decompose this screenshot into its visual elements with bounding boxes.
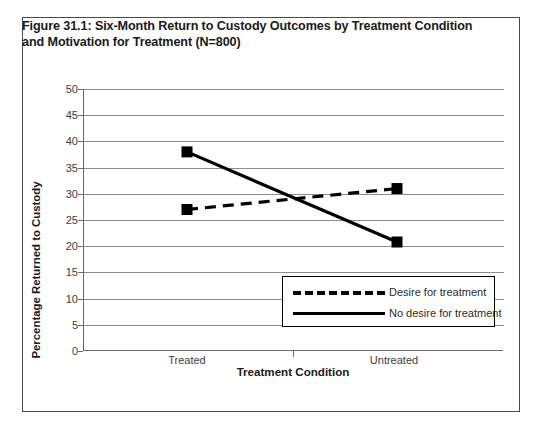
y-tick-label-35: 35 xyxy=(48,163,78,173)
gridline-50 xyxy=(84,89,504,90)
y-tick-20 xyxy=(78,246,83,247)
figure-title: Figure 31.1: Six-Month Return to Custody… xyxy=(22,18,484,50)
x-axis-title: Treatment Condition xyxy=(83,365,503,378)
y-tick-5 xyxy=(78,325,83,326)
gridline-25 xyxy=(84,220,504,221)
y-tick-label-30: 30 xyxy=(48,189,78,199)
y-tick-35 xyxy=(78,168,83,169)
y-tick-label-20: 20 xyxy=(48,241,78,251)
y-tick-label-50: 50 xyxy=(48,84,78,94)
gridline-45 xyxy=(84,115,504,116)
y-tick-label-5: 5 xyxy=(48,320,78,330)
y-axis-title: Percentage Returned to Custody xyxy=(30,90,42,432)
y-tick-label-0: 0 xyxy=(48,346,78,356)
y-tick-10 xyxy=(78,299,83,300)
legend-item-no-desire[interactable]: No desire for treatment xyxy=(283,303,496,323)
gridline-20 xyxy=(84,246,504,247)
y-tick-15 xyxy=(78,272,83,273)
y-tick-label-15: 15 xyxy=(48,267,78,277)
y-tick-25 xyxy=(78,220,83,221)
gridline-30 xyxy=(84,194,504,195)
legend-label-no-desire: No desire for treatment xyxy=(389,307,502,319)
legend-item-desire[interactable]: Desire for treatment xyxy=(283,282,496,302)
legend-swatch-solid-line-icon xyxy=(293,306,385,320)
y-tick-label-45: 45 xyxy=(48,110,78,120)
legend-label-desire: Desire for treatment xyxy=(389,286,486,298)
x-tick-mid xyxy=(293,351,294,357)
y-tick-label-10: 10 xyxy=(48,294,78,304)
gridline-35 xyxy=(84,168,504,169)
y-tick-0 xyxy=(78,351,83,352)
chart-legend[interactable]: Desire for treatment No desire for treat… xyxy=(282,276,495,327)
y-tick-40 xyxy=(78,141,83,142)
y-tick-label-40: 40 xyxy=(48,136,78,146)
gridline-15 xyxy=(84,272,504,273)
y-tick-30 xyxy=(78,194,83,195)
y-tick-45 xyxy=(78,115,83,116)
y-tick-label-25: 25 xyxy=(48,215,78,225)
y-tick-50 xyxy=(78,89,83,90)
legend-swatch-dashed-line-icon xyxy=(293,285,385,299)
gridline-40 xyxy=(84,141,504,142)
